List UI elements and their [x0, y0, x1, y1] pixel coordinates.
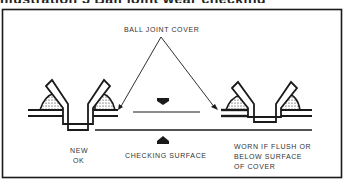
label-ball-joint-cover: BALL JOINT COVER: [124, 25, 199, 34]
label-new: NEW: [70, 146, 88, 155]
leader-line-right: [161, 37, 215, 108]
left-joint-new: [28, 80, 118, 130]
arrow-down-icon: [157, 98, 169, 105]
leader-line-left: [120, 37, 161, 108]
label-ok: OK: [73, 156, 84, 165]
label-worn-2: BELOW SURFACE: [234, 152, 302, 161]
arrow-up-icon: [157, 136, 169, 144]
right-joint-worn: [221, 82, 312, 122]
label-checking-surface: CHECKING SURFACE: [125, 151, 207, 160]
label-worn-3: OF COVER: [234, 162, 275, 171]
label-worn-1: WORN IF FLUSH OR: [234, 142, 311, 151]
